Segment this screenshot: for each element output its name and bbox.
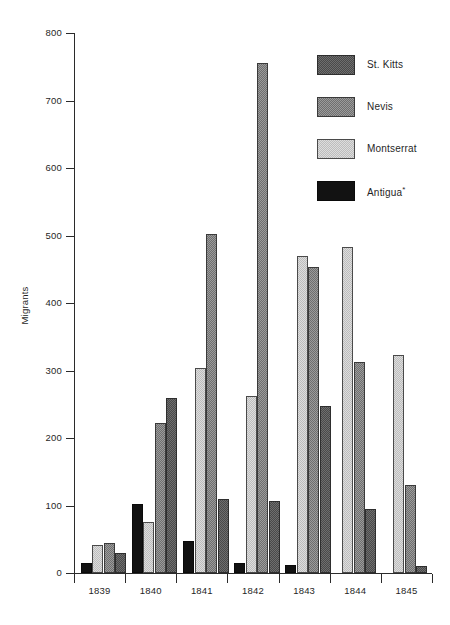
y-tick-label-0: 0	[28, 568, 62, 578]
x-tick-1843	[279, 574, 280, 583]
bar-montserrat-1839	[92, 545, 103, 573]
legend-label-montserrat: Montserrat	[367, 143, 417, 154]
y-tick-label-200: 200	[28, 433, 62, 443]
bar-nevis-1841	[206, 234, 217, 573]
bar-stkitts-1842	[269, 501, 280, 573]
x-axis-label-1843: 1843	[280, 586, 328, 596]
bar-nevis-1845	[405, 485, 416, 573]
legend-swatch-stkitts	[317, 55, 355, 75]
bar-stkitts-1839	[115, 553, 126, 573]
bar-stkitts-1841	[218, 499, 229, 573]
bar-stkitts-1843	[320, 406, 331, 573]
y-tick-label-700: 700	[28, 96, 62, 106]
legend-swatch-montserrat	[317, 139, 355, 159]
legend-label-nevis: Nevis	[367, 101, 393, 112]
bar-nevis-1842	[257, 63, 268, 573]
x-axis-label-1844: 1844	[331, 586, 379, 596]
bar-antigua-1843	[285, 565, 296, 573]
y-tick-label-500: 500	[28, 231, 62, 241]
x-tick-1841	[176, 574, 177, 583]
plot-area	[74, 33, 432, 573]
bar-stkitts-1844	[365, 509, 376, 573]
bar-montserrat-1841	[195, 368, 206, 573]
bar-stkitts-1840	[166, 398, 177, 574]
bar-antigua-1839	[81, 563, 92, 573]
legend-label-antigua: Antigua*	[367, 185, 406, 198]
x-tick-end	[432, 574, 433, 583]
bar-nevis-1839	[104, 543, 115, 573]
bar-montserrat-1844	[342, 247, 353, 573]
y-tick-label-400: 400	[28, 298, 62, 308]
bar-antigua-1840	[132, 504, 143, 573]
x-axis-line	[74, 573, 432, 574]
x-axis-label-1841: 1841	[178, 586, 226, 596]
bar-stkitts-1845	[416, 566, 427, 573]
bar-montserrat-1842	[246, 396, 257, 573]
x-axis-label-1842: 1842	[229, 586, 277, 596]
x-tick-1840	[125, 574, 126, 583]
legend-swatch-antigua	[317, 181, 355, 201]
legend-swatch-nevis	[317, 97, 355, 117]
legend-label-stkitts: St. Kitts	[367, 59, 403, 70]
x-tick-1842	[227, 574, 228, 583]
bar-nevis-1843	[308, 267, 319, 573]
migrants-bar-chart: Migrants 0100200300400500600700800 18391…	[0, 0, 450, 625]
bar-montserrat-1845	[393, 355, 404, 573]
bar-montserrat-1843	[297, 256, 308, 573]
y-tick-label-800: 800	[28, 28, 62, 38]
x-axis-label-1839: 1839	[76, 586, 124, 596]
y-tick-label-100: 100	[28, 501, 62, 511]
x-tick-1844	[330, 574, 331, 583]
bar-montserrat-1840	[143, 522, 154, 573]
bar-nevis-1840	[155, 423, 166, 573]
y-tick-label-600: 600	[28, 163, 62, 173]
bar-antigua-1842	[234, 563, 245, 573]
x-tick-1839	[74, 574, 75, 583]
bar-nevis-1844	[354, 362, 365, 573]
bar-antigua-1841	[183, 541, 194, 573]
x-axis-label-1845: 1845	[382, 586, 430, 596]
y-tick-label-300: 300	[28, 366, 62, 376]
x-tick-1845	[381, 574, 382, 583]
x-axis-label-1840: 1840	[127, 586, 175, 596]
